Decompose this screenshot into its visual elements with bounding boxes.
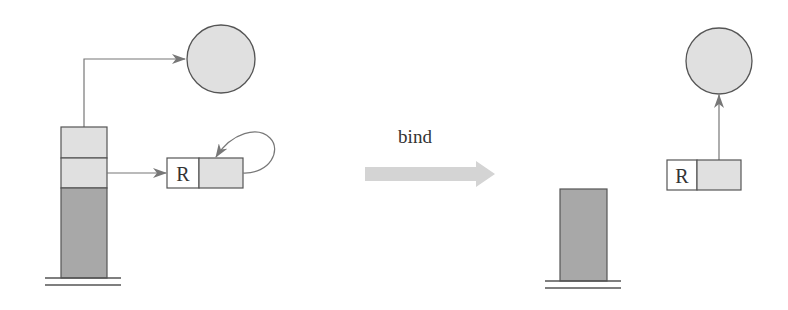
after-state: R xyxy=(545,28,752,288)
register-box-value-cell xyxy=(697,160,741,190)
bind-label: bind xyxy=(398,126,432,147)
heap-object-circle xyxy=(187,25,255,93)
stack-dark-region xyxy=(560,189,607,281)
before-state: R xyxy=(45,25,275,285)
register-label: R xyxy=(176,163,190,185)
pointer-arrow-to-heap xyxy=(84,59,185,127)
stack-cell-top xyxy=(61,127,107,158)
bind-diagram: R bind R xyxy=(0,0,788,310)
stack-cell-second xyxy=(61,158,107,188)
bind-transition: bind xyxy=(365,126,495,187)
register-label: R xyxy=(675,165,689,187)
stack-dark-region xyxy=(61,188,107,278)
register-box-value-cell xyxy=(199,158,243,188)
heap-object-circle xyxy=(686,28,752,94)
bind-arrow-icon xyxy=(365,161,495,187)
